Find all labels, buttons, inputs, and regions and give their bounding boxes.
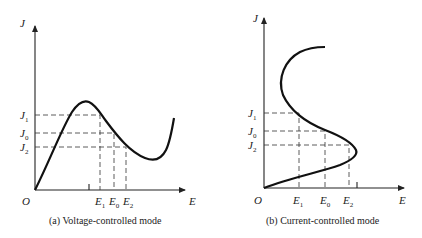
- label-j1: J1: [20, 109, 29, 124]
- y-axis-label: J: [20, 17, 26, 29]
- label-j0: J0: [20, 127, 29, 142]
- label-e2: E2: [122, 195, 134, 210]
- x-axis-label: E: [398, 194, 406, 206]
- label-e0: E0: [319, 194, 331, 209]
- label-e2: E2: [342, 194, 354, 209]
- guide-j1-e1: [35, 115, 100, 190]
- label-j2: J2: [248, 139, 257, 154]
- panel-a-voltage-controlled: J E O J1 J0 J2 E1 E0 E2 (a) Voltage-cont…: [20, 17, 196, 227]
- figure: J E O J1 J0 J2 E1 E0 E2 (a) Voltage-cont…: [0, 0, 422, 238]
- x-axis-label: E: [188, 195, 196, 207]
- label-e0: E0: [108, 195, 120, 210]
- label-e1: E1: [94, 195, 106, 210]
- origin-label: O: [254, 194, 262, 206]
- caption-b: (b) Current-controlled mode: [266, 215, 380, 227]
- s-curve: [264, 47, 356, 188]
- origin-label: O: [22, 195, 30, 207]
- guide-j2-e2: [35, 147, 126, 190]
- label-e1: E1: [292, 194, 304, 209]
- label-j1: J1: [248, 107, 257, 122]
- y-axis-label: J: [253, 12, 259, 24]
- guide-j0-e0: [35, 133, 114, 190]
- guide-j1-e1: [264, 113, 299, 188]
- label-j0: J0: [248, 125, 257, 140]
- panel-b-current-controlled: J E O J1 J0 J2 E1 E0 E2 (b) Current-cont…: [248, 12, 406, 227]
- caption-a: (a) Voltage-controlled mode: [49, 215, 162, 227]
- label-j2: J2: [20, 141, 29, 156]
- guide-j0-e0: [264, 131, 325, 188]
